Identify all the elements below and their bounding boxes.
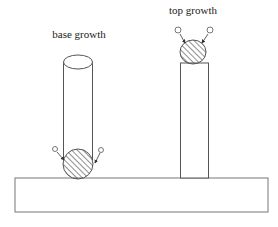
top-feed-arrow-left bbox=[175, 27, 185, 43]
top-growth-label: top growth bbox=[169, 4, 217, 16]
nanotube-top-ellipse bbox=[64, 55, 93, 69]
base-growth-nanotube bbox=[64, 55, 93, 160]
base-feed-arrow-right bbox=[95, 148, 104, 164]
top-feed-arrow-right bbox=[202, 27, 213, 43]
base-catalyst-particle bbox=[63, 149, 93, 179]
top-catalyst-particle bbox=[180, 40, 206, 64]
substrate bbox=[15, 178, 268, 212]
top-growth-nanotube bbox=[181, 63, 209, 178]
base-feed-arrow-left bbox=[53, 147, 65, 161]
base-growth-label: base growth bbox=[52, 28, 106, 40]
growth-mechanism-diagram: base growth top growth bbox=[0, 0, 278, 227]
